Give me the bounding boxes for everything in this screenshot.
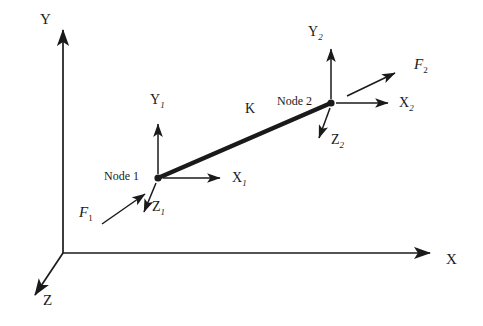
node-2-local-z-subscript: 2 xyxy=(340,140,345,150)
global-z-axis xyxy=(35,253,63,295)
node-1-force-label: F1 xyxy=(79,205,93,223)
node-2-local-x-label: X2 xyxy=(399,96,414,113)
node-2-label: Node 2 xyxy=(277,95,312,107)
node-2-local-y-subscript: 2 xyxy=(318,32,323,42)
global-y-axis-label: Y xyxy=(40,12,51,27)
node-1-local-z-letter: Z xyxy=(152,199,161,214)
node-2-force-subscript: 2 xyxy=(423,65,428,75)
node-1-force-arrow xyxy=(102,194,145,224)
global-z-axis-label: Z xyxy=(43,293,52,308)
node-1-local-x-label: X1 xyxy=(232,171,247,188)
node-2-local-x-letter: X xyxy=(399,95,409,110)
element-stiffness-label: K xyxy=(245,102,255,116)
node-1-local-z-label: Z1 xyxy=(152,200,165,217)
node-1-local-y-letter: Y xyxy=(150,92,160,107)
node-2-local-y-label: Y2 xyxy=(308,25,323,42)
node-2-marker xyxy=(327,99,334,106)
global-x-axis-label: X xyxy=(446,252,457,267)
node-1-local-x-letter: X xyxy=(232,170,242,185)
beam-element-diagram xyxy=(0,0,483,326)
diagram-canvas: X Y Z K Node 1 X1 Y1 Z1 F1 Node 2 X2 Y2 … xyxy=(0,0,483,326)
node-2-local-z-label: Z2 xyxy=(331,133,344,150)
node-1-local-x-subscript: 1 xyxy=(242,178,247,188)
node-1-local-y-label: Y1 xyxy=(150,93,165,110)
node-2-local-y-letter: Y xyxy=(308,24,318,39)
node-2-force-arrow xyxy=(347,73,395,96)
node-2-force-letter: F xyxy=(414,56,423,72)
node-1-local-y-subscript: 1 xyxy=(160,100,165,110)
node-1-force-subscript: 1 xyxy=(88,213,93,223)
global-axes xyxy=(35,30,430,295)
node-2-local-axes xyxy=(319,49,395,138)
node-1-local-z-subscript: 1 xyxy=(161,207,166,217)
node-1-label: Node 1 xyxy=(104,170,139,182)
node-2-local-x-subscript: 2 xyxy=(409,103,414,113)
node-1-marker xyxy=(154,174,161,181)
node-1-force-letter: F xyxy=(79,204,88,220)
node-2-force-label: F2 xyxy=(414,57,428,75)
node-2-local-z-letter: Z xyxy=(331,132,340,147)
node-2-local-z-arrow xyxy=(319,108,330,138)
